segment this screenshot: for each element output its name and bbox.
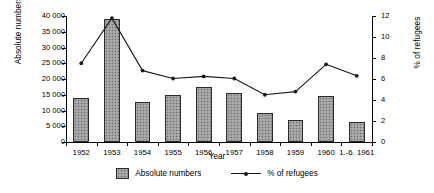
y-axis-left-tick-label: 35 000 [42, 28, 65, 36]
y-axis-right-tick [372, 100, 376, 101]
y-axis-right-tick-label: 6 [381, 75, 385, 83]
line-marker [141, 69, 145, 73]
x-axis-tick [250, 142, 251, 146]
y-axis-right-tick-label: 8 [381, 54, 385, 62]
y-axis-left-tick-label: 20 000 [42, 75, 65, 83]
y-axis-right-tick [372, 79, 376, 80]
line-path [81, 18, 356, 95]
line-markers [79, 16, 358, 96]
y-axis-left-tick-label: 0 [61, 138, 65, 146]
x-axis-tick [158, 142, 159, 146]
line-marker [294, 90, 298, 94]
x-axis-tick [188, 142, 189, 146]
y-axis-right-tick-label: 0 [381, 138, 385, 146]
y-axis-left-tick-label: 25 000 [42, 59, 65, 67]
y-axis-right-tick-label: 12 [381, 12, 389, 20]
y-axis-left-tick-label: 15 000 [42, 91, 65, 99]
y-axis-left-title: Absolute numbers [14, 0, 23, 91]
y-axis-left-tick-label: 5 000 [46, 122, 65, 130]
plot-area: 05 00010 00015 00020 00025 00030 00035 0… [66, 16, 372, 142]
x-axis-tick [372, 142, 373, 146]
chart-legend: Absolute numbers % of refugees [0, 168, 434, 179]
line-marker [232, 77, 236, 81]
legend-line-icon [231, 170, 261, 177]
y-axis-right-tick-label: 4 [381, 96, 385, 104]
line-marker [355, 74, 359, 78]
line-series [66, 16, 372, 142]
x-axis-tick [219, 142, 220, 146]
line-marker [202, 74, 206, 78]
y-axis-right-tick-label: 2 [381, 117, 385, 125]
y-axis-right-title: % of refugees [413, 0, 422, 98]
y-axis-right-tick [372, 37, 376, 38]
y-axis-left-tick-label: 40 000 [42, 12, 65, 20]
legend-item-percent-of-refugees: % of refugees [231, 169, 318, 178]
legend-label-percent-of-refugees: % of refugees [267, 169, 318, 178]
y-axis-right-tick-label: 10 [381, 33, 389, 41]
x-axis-tick [311, 142, 312, 146]
line-marker [110, 16, 114, 20]
y-axis-right-tick [372, 16, 376, 17]
legend-item-absolute-numbers: Absolute numbers [116, 168, 201, 179]
y-axis-left-tick-label: 10 000 [42, 107, 65, 115]
y-axis-right-tick [372, 121, 376, 122]
line-marker [79, 61, 83, 65]
x-axis-tick-label: 1.-6. 1961 [326, 149, 387, 157]
chart-container: Absolute numbers % of refugees Year 05 0… [0, 0, 434, 193]
x-axis-tick [280, 142, 281, 146]
line-marker [324, 62, 328, 66]
x-axis-tick [97, 142, 98, 146]
line-marker [171, 77, 175, 81]
legend-label-absolute-numbers: Absolute numbers [135, 169, 201, 178]
y-axis-left-tick-label: 30 000 [42, 44, 65, 52]
y-axis-right-tick [372, 58, 376, 59]
x-axis-tick [341, 142, 342, 146]
x-axis-tick [127, 142, 128, 146]
x-axis-tick [66, 142, 67, 146]
legend-swatch-icon [116, 168, 129, 179]
line-marker [263, 93, 267, 97]
